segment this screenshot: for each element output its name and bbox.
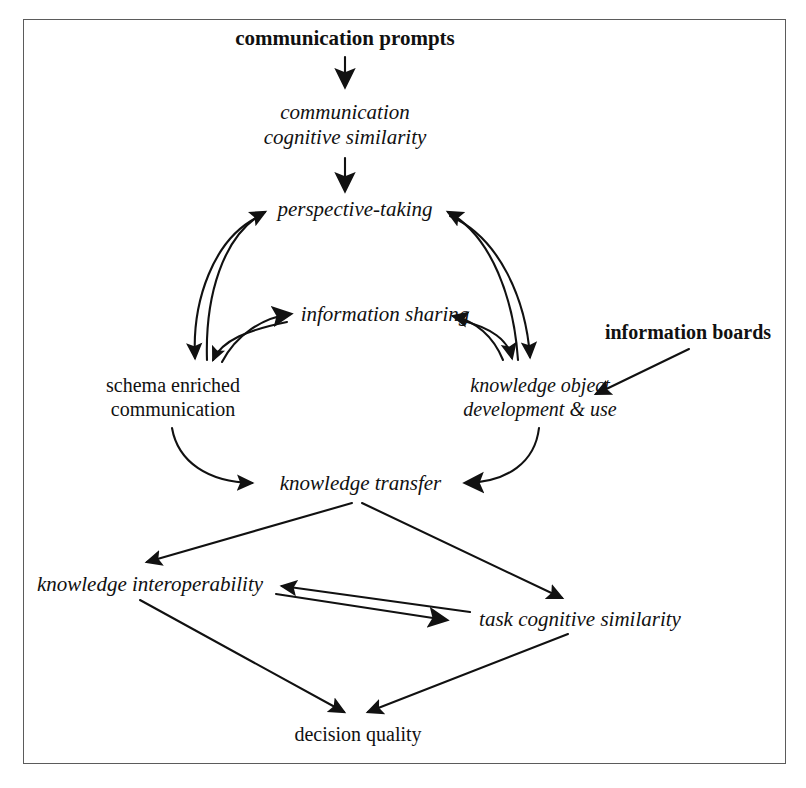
node-communication-cognitive-similarity-line2: cognitive similarity	[205, 125, 485, 150]
arrow-knowtransfer-to-taskcogsim	[362, 503, 562, 598]
node-task-cognitive-similarity-label: task cognitive similarity	[470, 607, 690, 632]
node-knowledge-transfer[interactable]: knowledge transfer	[258, 471, 463, 496]
arrow-interop-to-decisionquality	[140, 600, 344, 712]
arrow-knowtransfer-to-interop	[147, 503, 352, 562]
node-knowledge-interoperability-label: knowledge interoperability	[30, 572, 270, 597]
arrow-taskcogsim-to-decisionquality	[368, 634, 568, 712]
node-information-sharing[interactable]: information sharing	[295, 302, 475, 327]
node-knowledge-interoperability[interactable]: knowledge interoperability	[30, 572, 270, 597]
arrow-infosharing-to-schema	[213, 322, 287, 360]
node-knowledge-transfer-label: knowledge transfer	[258, 471, 463, 496]
node-perspective-taking-label: perspective-taking	[235, 197, 475, 222]
arrow-knowobj-to-knowtransfer	[466, 428, 539, 483]
node-knowledge-object-development[interactable]: knowledge object development & use	[440, 374, 640, 421]
arrow-knowobj-to-perspective	[448, 212, 518, 360]
arrow-perspective-to-schema	[195, 218, 256, 358]
node-communication-prompts-label: communication prompts	[205, 26, 485, 51]
node-decision-quality-label: decision quality	[258, 723, 458, 747]
node-schema-enriched-communication-line2: communication	[80, 398, 266, 422]
node-information-boards[interactable]: information boards	[592, 321, 784, 345]
node-task-cognitive-similarity[interactable]: task cognitive similarity	[470, 607, 690, 632]
node-communication-prompts[interactable]: communication prompts	[205, 26, 485, 51]
node-knowledge-object-development-line1: knowledge object	[440, 374, 640, 398]
node-communication-cognitive-similarity[interactable]: communication cognitive similarity	[205, 100, 485, 150]
node-communication-cognitive-similarity-line1: communication	[205, 100, 485, 125]
node-information-sharing-label: information sharing	[295, 302, 475, 327]
diagram-page: communication prompts communication cogn…	[0, 0, 806, 788]
node-information-boards-label: information boards	[592, 321, 784, 345]
node-schema-enriched-communication-line1: schema enriched	[80, 374, 266, 398]
arrow-schema-to-infosharing	[222, 314, 290, 362]
node-perspective-taking[interactable]: perspective-taking	[235, 197, 475, 222]
arrow-perspective-to-knowobj	[450, 216, 530, 357]
node-schema-enriched-communication[interactable]: schema enriched communication	[80, 374, 266, 421]
node-knowledge-object-development-line2: development & use	[440, 398, 640, 422]
arrow-schema-to-knowtransfer	[172, 428, 252, 483]
node-decision-quality[interactable]: decision quality	[258, 723, 458, 747]
